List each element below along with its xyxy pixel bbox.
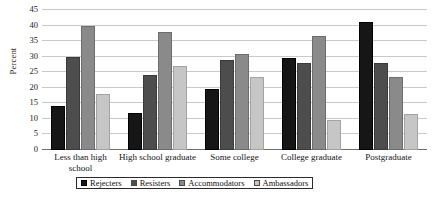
- bar: [327, 120, 341, 150]
- bar: [359, 22, 373, 150]
- x-axis-category-label: High school graduate: [119, 152, 196, 163]
- legend-swatch-icon: [179, 180, 185, 186]
- bar: [404, 114, 418, 150]
- y-tick-label: 40: [30, 20, 39, 30]
- x-axis-category-label: Postgraduate: [350, 152, 427, 163]
- x-axis-category-label: Less than high school: [42, 152, 119, 174]
- legend-item: Resisters: [131, 178, 171, 188]
- y-tick-label: 25: [30, 66, 39, 76]
- y-tick-label: 0: [34, 144, 38, 154]
- legend-item: Ambassadors: [254, 178, 309, 188]
- bar: [158, 32, 172, 150]
- chart-legend: RejectersResistersAccommodatorsAmbassado…: [76, 177, 313, 189]
- legend-item: Accommodators: [179, 178, 244, 188]
- bar: [128, 113, 142, 150]
- y-tick-label: 15: [30, 97, 39, 107]
- bar: [96, 94, 110, 150]
- bar-group: [42, 10, 119, 150]
- bar-group: [350, 10, 427, 150]
- y-axis-title: Percent: [8, 26, 18, 96]
- legend-label: Resisters: [140, 178, 171, 188]
- bar: [235, 54, 249, 150]
- y-tick-label: 10: [30, 113, 39, 123]
- legend-label: Ambassadors: [263, 178, 309, 188]
- bar: [51, 106, 65, 150]
- bar: [205, 89, 219, 150]
- bar: [81, 26, 95, 150]
- bar: [143, 75, 157, 150]
- bar: [389, 77, 403, 150]
- bar: [297, 63, 311, 150]
- y-tick-label: 30: [30, 51, 39, 61]
- bar: [173, 66, 187, 150]
- legend-label: Rejecters: [90, 178, 122, 188]
- x-axis-category-label: Some college: [196, 152, 273, 163]
- bar-chart-figure: Percent 051015202530354045 Less than hig…: [0, 0, 435, 203]
- legend-swatch-icon: [131, 180, 137, 186]
- bar: [374, 63, 388, 150]
- bar-group: [119, 10, 196, 150]
- bar-group: [196, 10, 273, 150]
- x-axis-category-label: College graduate: [273, 152, 350, 163]
- bar: [250, 77, 264, 150]
- bar: [312, 36, 326, 150]
- bar: [282, 58, 296, 150]
- legend-item: Rejecters: [81, 178, 122, 188]
- legend-swatch-icon: [81, 180, 87, 186]
- plot-area: 051015202530354045: [42, 10, 427, 150]
- y-tick-label: 45: [30, 4, 39, 14]
- y-tick-label: 20: [30, 82, 39, 92]
- x-axis-labels: Less than high schoolHigh school graduat…: [42, 152, 427, 180]
- legend-swatch-icon: [254, 180, 260, 186]
- bar: [66, 57, 80, 150]
- bar-group: [273, 10, 350, 150]
- bar: [220, 60, 234, 150]
- y-tick-label: 35: [30, 35, 39, 45]
- y-tick-label: 5: [34, 128, 38, 138]
- bar-groups: [42, 10, 427, 150]
- legend-label: Accommodators: [188, 178, 244, 188]
